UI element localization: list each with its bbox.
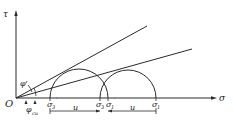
dim-arrow (96, 110, 100, 113)
u-left-label: u (73, 103, 78, 112)
u-right-label: u (130, 103, 135, 112)
sigma3-prime-sub: 3 (52, 104, 55, 110)
total-envelope-line (16, 49, 192, 98)
tau-axis-label: τ (3, 9, 9, 19)
effective-envelope-line (16, 26, 147, 98)
tau-axis-arrow (14, 10, 17, 16)
sigma1-prime-sup: ' (114, 96, 115, 102)
sigma3-sub: 3 (101, 104, 104, 110)
sigma-axis-arrow (211, 96, 217, 99)
total-stress-circle (100, 70, 156, 98)
phi-cu-arrow (34, 100, 37, 104)
sigma1-prime-sub: 1 (111, 104, 114, 110)
mohr-circle-diagram: τ σ O φ' φ cu σ 3 ' σ 3 σ 1 ' σ 1 u u (0, 0, 233, 127)
origin-label: O (5, 98, 13, 109)
phi-prime-label: φ' (20, 79, 28, 88)
sigma1-sub: 1 (157, 104, 160, 110)
effective-stress-circle (50, 69, 108, 98)
sigma3-prime-sup: ' (56, 96, 57, 102)
phi-cu-subscript: cu (32, 110, 38, 116)
phi-cu-arc (34, 88, 36, 96)
phi-prime-arrow (25, 100, 28, 104)
sigma-axis-label: σ (219, 93, 226, 103)
